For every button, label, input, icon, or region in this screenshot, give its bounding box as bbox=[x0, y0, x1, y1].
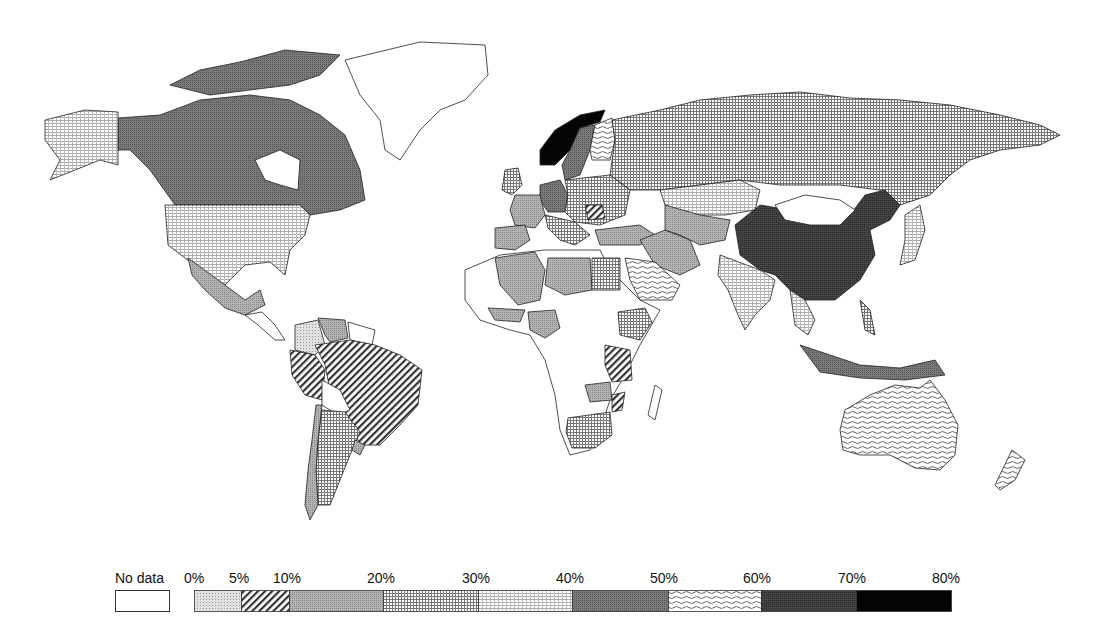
legend-tick: 70% bbox=[838, 570, 866, 586]
region-indonesia bbox=[800, 345, 945, 380]
region-france bbox=[510, 195, 545, 228]
legend-swatch-5-10 bbox=[242, 591, 290, 612]
region-ethiopia bbox=[618, 308, 652, 340]
region-mongolia bbox=[775, 195, 855, 225]
legend-swatch-30-40 bbox=[479, 591, 573, 612]
region-japan bbox=[900, 205, 925, 265]
region-australia bbox=[840, 380, 958, 470]
legend-tick: 5% bbox=[229, 570, 249, 586]
legend-swatch-70-80 bbox=[857, 591, 952, 612]
region-zambia bbox=[585, 382, 612, 402]
legend-tick: 80% bbox=[932, 570, 960, 586]
legend-swatch-20-30 bbox=[384, 591, 479, 612]
legend-tick: 50% bbox=[650, 570, 678, 586]
legend-swatch-no-data bbox=[115, 590, 170, 612]
region-peru bbox=[290, 350, 325, 400]
legend-tick: 60% bbox=[743, 570, 771, 586]
legend-tick: 20% bbox=[367, 570, 395, 586]
legend-no-data-label: No data bbox=[115, 570, 164, 586]
world-map bbox=[0, 0, 1093, 540]
region-egypt bbox=[592, 258, 620, 290]
region-usa bbox=[165, 205, 310, 285]
region-alaska bbox=[45, 110, 118, 180]
region-new-zealand bbox=[995, 450, 1025, 490]
region-canada-islands bbox=[170, 50, 340, 95]
legend-color-bar bbox=[194, 590, 952, 612]
region-central-america bbox=[245, 312, 285, 340]
legend-swatch-60-70 bbox=[762, 591, 857, 612]
region-south-africa bbox=[566, 412, 612, 448]
region-spain bbox=[495, 225, 530, 250]
region-finland bbox=[590, 118, 615, 160]
region-madagascar bbox=[648, 385, 662, 420]
legend-tick: 0% bbox=[184, 570, 204, 586]
map-canvas bbox=[0, 0, 1093, 540]
legend-swatch-0-5 bbox=[195, 591, 242, 612]
region-mozambique bbox=[612, 392, 625, 412]
legend-tick: 40% bbox=[556, 570, 584, 586]
legend-tick: 10% bbox=[273, 570, 301, 586]
legend-swatch-40-50 bbox=[573, 591, 669, 612]
legend-swatch-10-20 bbox=[290, 591, 384, 612]
legend-swatch-50-60 bbox=[669, 591, 762, 612]
region-uk bbox=[502, 168, 522, 195]
region-canada bbox=[118, 95, 365, 215]
map-legend: No data 0% 5% 10% 20% 30% 40% 50% 60% 70… bbox=[0, 560, 1093, 620]
region-philippines bbox=[860, 300, 875, 335]
region-argentina bbox=[316, 410, 360, 505]
region-romania bbox=[585, 205, 605, 220]
region-greenland bbox=[345, 42, 488, 160]
legend-tick: 30% bbox=[462, 570, 490, 586]
region-germany bbox=[540, 180, 568, 212]
